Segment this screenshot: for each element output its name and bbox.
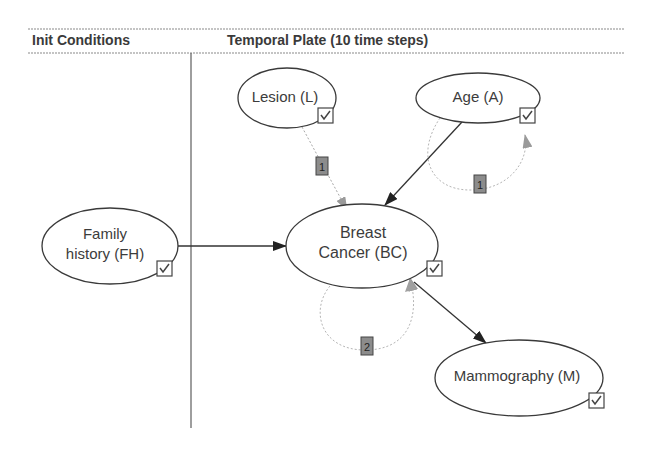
lesion-checkbox[interactable] — [318, 108, 333, 123]
arc-bc-to-mammography[interactable] — [414, 282, 486, 343]
age-label: Age (A) — [453, 87, 504, 107]
family-history-checkbox[interactable] — [157, 261, 172, 276]
breast-cancer-label: Breast Cancer (BC) — [319, 223, 408, 263]
breast-cancer-label-line2: Cancer (BC) — [319, 243, 408, 263]
arc-age-to-bc[interactable] — [385, 122, 462, 205]
family-history-label-line2: history (FH) — [66, 244, 144, 264]
family-history-label-line1: Family — [66, 224, 144, 244]
mammography-label: Mammography (M) — [454, 366, 581, 386]
temporal-order-label: 1 — [477, 179, 483, 191]
temporal-badge-bc[interactable]: 2 — [361, 337, 373, 355]
init-conditions-heading: Init Conditions — [32, 32, 130, 48]
breast-cancer-label-line1: Breast — [319, 223, 408, 243]
family-history-label: Family history (FH) — [66, 224, 144, 264]
age-checkbox[interactable] — [520, 108, 535, 123]
temporal-badge-age[interactable]: 1 — [474, 175, 486, 193]
temporal-order-label: 1 — [319, 161, 325, 173]
temporal-badge-lesion[interactable]: 1 — [316, 157, 328, 175]
mammography-checkbox[interactable] — [589, 393, 604, 408]
temporal-plate-heading: Temporal Plate (10 time steps) — [227, 32, 428, 48]
temporal-order-label: 2 — [364, 341, 370, 353]
lesion-label: Lesion (L) — [252, 87, 319, 107]
breast-cancer-checkbox[interactable] — [427, 261, 442, 276]
